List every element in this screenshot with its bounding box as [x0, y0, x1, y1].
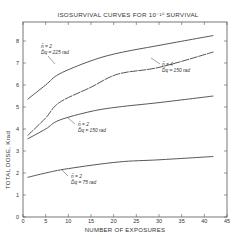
series-label-2-line1: n̄ = 4 [162, 61, 173, 67]
x-tick-label: 35 [179, 218, 185, 224]
annotation-leader [48, 56, 55, 64]
x-axis-label: NUMBER OF EXPOSURES [85, 227, 166, 233]
isosurvival-chart: ISOSURVIVAL CURVES FOR 10⁻¹⁰ SURVIVAL 05… [0, 0, 236, 241]
x-tick-label: 5 [44, 218, 47, 224]
x-tick-label: 25 [133, 218, 139, 224]
y-tick-label: 2 [16, 170, 19, 176]
y-tick-label: 0 [16, 214, 19, 220]
series-label-1-line2: D̄q = 225 rad [41, 49, 69, 55]
y-tick-label: 6 [16, 82, 19, 88]
series-label-4-line2: D̄q = 75 rad [71, 179, 97, 185]
series-label-3-line1: n̄ = 2 [78, 121, 89, 127]
annotation-leader [68, 118, 75, 124]
x-tick-label: 45 [224, 218, 230, 224]
y-axis: 012345678 [16, 38, 227, 220]
series-label-1-line1: n̄ = 2 [41, 43, 52, 49]
x-tick-label: 40 [201, 218, 207, 224]
x-tick-label: 20 [111, 218, 117, 224]
series-line-2 [28, 52, 214, 136]
x-tick-label: 15 [88, 218, 94, 224]
y-tick-label: 3 [16, 148, 19, 154]
y-tick-label: 5 [16, 104, 19, 110]
annotation-leader [62, 170, 68, 176]
chart-title: ISOSURVIVAL CURVES FOR 10⁻¹⁰ SURVIVAL [57, 11, 198, 18]
x-tick-label: 30 [156, 218, 162, 224]
annotation-leader [151, 58, 160, 64]
series-label-4-line1: n̄ = 2 [71, 173, 82, 179]
series-line-3 [28, 96, 214, 139]
y-tick-label: 7 [16, 60, 19, 66]
x-tick-label: 10 [65, 218, 71, 224]
series-label-3-line2: D̄q = 150 rad [78, 127, 106, 133]
y-axis-label: TOTAL DOSE, Krad [5, 131, 11, 189]
series-line-4 [28, 157, 214, 178]
y-tick-label: 8 [16, 38, 19, 44]
annotations: n̄ = 2D̄q = 225 radn̄ = 4D̄q = 150 radn̄… [41, 43, 190, 185]
y-tick-label: 1 [16, 192, 19, 198]
series-label-2-line2: D̄q = 150 rad [162, 67, 190, 73]
curves [28, 36, 214, 178]
y-tick-label: 4 [16, 126, 19, 132]
x-tick-label: 0 [21, 218, 24, 224]
